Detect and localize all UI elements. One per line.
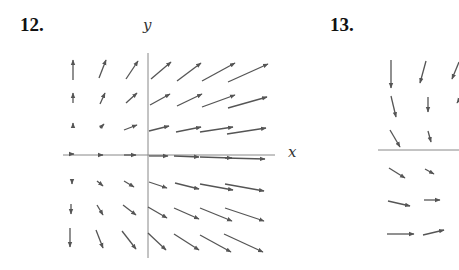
vector-arrow-icon bbox=[149, 126, 169, 131]
vector-arrow-icon bbox=[225, 158, 265, 159]
vector-arrow-icon bbox=[148, 207, 167, 218]
vector-field-canvas bbox=[0, 0, 459, 270]
vector-arrow-icon bbox=[389, 168, 405, 178]
vector-arrow-icon bbox=[200, 208, 232, 221]
vector-arrow-icon bbox=[149, 182, 167, 188]
vector-arrow-icon bbox=[225, 208, 264, 221]
vector-arrow-icon bbox=[428, 131, 431, 142]
vector-arrow-icon bbox=[423, 230, 444, 235]
vector-arrow-icon bbox=[126, 93, 137, 103]
vector-arrow-icon bbox=[202, 95, 235, 107]
vector-arrow-icon bbox=[388, 201, 410, 206]
vector-arrow-icon bbox=[177, 94, 202, 106]
vector-arrow-icon bbox=[177, 63, 201, 81]
vector-arrow-icon bbox=[202, 63, 235, 81]
vector-arrow-icon bbox=[100, 124, 104, 128]
vector-arrow-icon bbox=[97, 205, 103, 215]
vector-arrow-icon bbox=[151, 62, 171, 79]
vector-arrow-icon bbox=[174, 208, 199, 219]
vector-arrow-icon bbox=[200, 235, 231, 252]
vector-arrow-icon bbox=[96, 230, 103, 248]
vector-arrow-icon bbox=[100, 93, 105, 104]
vector-arrow-icon bbox=[174, 234, 199, 250]
vector-arrow-icon bbox=[175, 183, 199, 189]
vector-arrow-icon bbox=[99, 60, 106, 78]
vector-arrow-icon bbox=[200, 127, 233, 132]
vector-arrow-icon bbox=[391, 96, 396, 117]
vector-arrow-icon bbox=[150, 94, 170, 105]
vector-arrow-icon bbox=[452, 62, 459, 79]
vector-arrow-icon bbox=[126, 61, 138, 79]
vector-arrow-icon bbox=[227, 128, 266, 134]
vector-arrow-icon bbox=[123, 205, 136, 215]
vector-arrow-icon bbox=[224, 234, 263, 252]
vector-arrow-icon bbox=[148, 233, 166, 250]
vector-arrow-icon bbox=[124, 125, 137, 130]
axes bbox=[63, 53, 459, 258]
vector-arrow-icon bbox=[390, 130, 400, 147]
vector-arrow-icon bbox=[174, 156, 199, 157]
vector-arrow-icon bbox=[124, 181, 134, 187]
vector-arrow-icon bbox=[228, 97, 267, 108]
vector-arrow-icon bbox=[420, 61, 426, 83]
vector-arrow-icon bbox=[176, 127, 201, 132]
vector-arrow-icon bbox=[425, 169, 434, 174]
vector-arrow-icon bbox=[228, 64, 268, 82]
vector-arrows bbox=[70, 60, 459, 252]
vector-arrow-icon bbox=[122, 231, 136, 249]
vector-arrow-icon bbox=[97, 181, 103, 186]
